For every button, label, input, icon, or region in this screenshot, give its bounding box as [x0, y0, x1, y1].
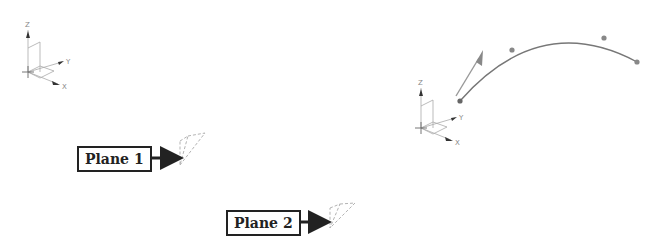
spline-point[interactable] [457, 98, 462, 103]
axis-label-y: Y [65, 58, 71, 66]
diagram-canvas: Z Y X Z Y X [0, 0, 665, 248]
spline-point[interactable] [634, 59, 639, 64]
coordinate-triad-left: Z Y X [22, 21, 71, 91]
axis-label-z: Z [25, 21, 30, 29]
plane-2-label: Plane 2 [226, 210, 301, 236]
plane-2-symbol[interactable] [330, 203, 355, 228]
spline-point[interactable] [509, 47, 514, 52]
plane-1-label: Plane 1 [77, 146, 152, 172]
axis-label-y: Y [458, 114, 464, 122]
plane-1-symbol[interactable] [180, 133, 205, 165]
spline-point[interactable] [601, 35, 606, 40]
spline-curve[interactable] [460, 43, 637, 101]
axis-label-x: X [62, 83, 67, 91]
coordinate-triad-right: Z Y X [415, 79, 464, 147]
axis-label-x: X [455, 139, 460, 147]
direction-arrow-icon[interactable] [456, 50, 483, 96]
axis-label-z: Z [418, 79, 423, 87]
